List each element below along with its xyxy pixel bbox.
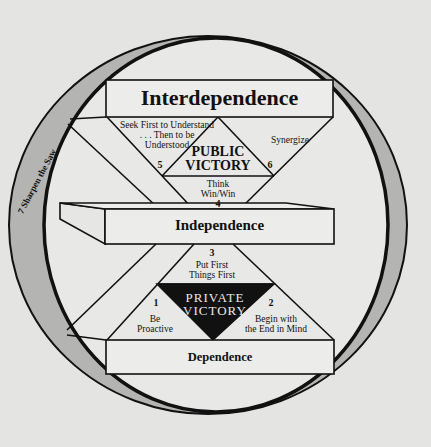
independence-label: Independence [105, 218, 334, 233]
habit-3-text: Put First Things First [177, 260, 247, 280]
habit-5-text: Seek First to Understand . . . Then to b… [112, 120, 222, 150]
habit-2-text: Begin with the End in Mind [236, 314, 316, 334]
habit-1-number: 1 [150, 298, 162, 308]
habit-2-number: 2 [265, 298, 277, 308]
habit-6-number: 6 [264, 160, 276, 170]
habits-diagram: Interdependence Independence Dependence … [0, 0, 431, 447]
habit-5-line-1: Seek First to Understand [112, 120, 222, 130]
habit-1-text: Be Proactive [130, 314, 180, 334]
habit-2-line-1: Begin with [236, 314, 316, 324]
habit-6-text: Synergize [255, 135, 325, 145]
habit-2-line-2: the End in Mind [236, 324, 316, 334]
habit-1-line-1: Be [130, 314, 180, 324]
habit-4-number: 4 [212, 199, 224, 209]
habit-4-line-1: Think [183, 179, 253, 189]
habit-5-line-2: . . . Then to be [112, 130, 222, 140]
habit-3-line-1: Put First [177, 260, 247, 270]
public-victory-line-2: VICTORY [168, 159, 268, 173]
habit-5-number: 5 [154, 160, 166, 170]
habit-3-number: 3 [206, 248, 218, 258]
habit-5-line-3: Understood [112, 140, 222, 150]
dependence-label: Dependence [106, 351, 334, 364]
habit-1-line-2: Proactive [130, 324, 180, 334]
habit-3-line-2: Things First [177, 270, 247, 280]
habit-4-text: Think Win/Win [183, 179, 253, 199]
interdependence-label: Interdependence [106, 87, 333, 109]
